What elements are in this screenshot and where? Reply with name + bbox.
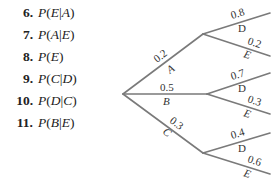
prob-label-A-D: 0.8	[229, 5, 246, 21]
event-label-C-D: D	[238, 142, 246, 154]
prob-label-B-E: 0.3	[246, 92, 263, 108]
prob-label-B: 0.5	[160, 81, 174, 93]
prob-label-B-D: 0.7	[229, 66, 246, 82]
event-label-A: A	[163, 62, 177, 76]
event-label-A-D: D	[238, 22, 246, 34]
prob-label-C-E: 0.6	[246, 152, 263, 168]
probability-tree-diagram: 0.2 A 0.5 B 0.3 C 0.8 D 0.2 E 0.7 D 0.3 …	[0, 0, 279, 179]
event-label-B-D: D	[238, 82, 246, 94]
event-label-B: B	[163, 95, 170, 107]
event-label-B-E: E	[241, 106, 252, 120]
event-label-C-E: E	[241, 166, 252, 179]
event-label-A-E: E	[241, 47, 252, 61]
event-label-C: C	[161, 125, 175, 139]
prob-label-C-D: 0.4	[229, 125, 246, 141]
